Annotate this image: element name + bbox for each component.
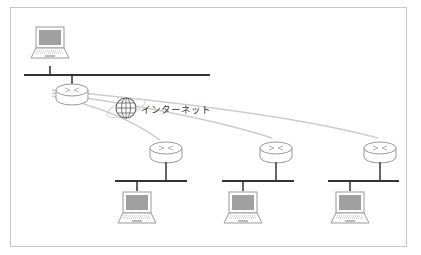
wan-links bbox=[52, 90, 378, 140]
lan-3 bbox=[328, 142, 399, 223]
router-icon bbox=[260, 142, 292, 163]
internet-label: インターネット bbox=[141, 102, 211, 116]
router-icon bbox=[364, 142, 396, 163]
wan-link-3 bbox=[52, 90, 378, 138]
network-diagram bbox=[0, 0, 421, 255]
router-icon bbox=[150, 142, 182, 163]
router-icon bbox=[56, 84, 88, 105]
lan-1 bbox=[115, 142, 187, 223]
lan-2 bbox=[222, 142, 294, 223]
laptop-icon bbox=[331, 192, 369, 223]
lan-top bbox=[24, 27, 210, 105]
laptop-icon bbox=[118, 192, 156, 223]
laptop-icon bbox=[31, 27, 69, 58]
laptop-icon bbox=[224, 192, 262, 223]
